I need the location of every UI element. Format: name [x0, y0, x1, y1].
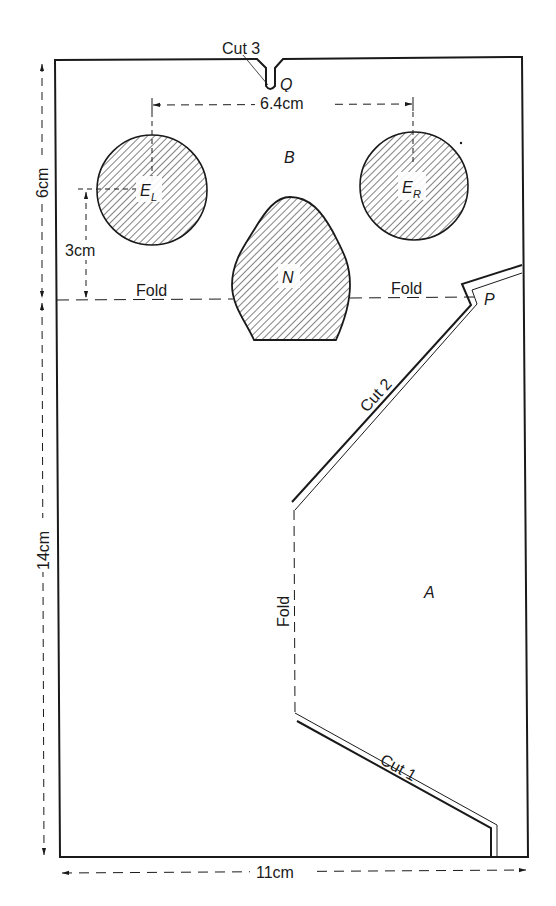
horizontal-fold-line-left	[57, 299, 233, 300]
vertical-fold-line	[294, 510, 295, 713]
horizontal-fold-line-right	[350, 297, 474, 298]
right-eye-subscript: R	[413, 188, 421, 200]
cut1-label: Cut 1	[378, 751, 420, 784]
mask-template-diagram: Cut 3 Q 6.4cm E L E R B N Fold Fold 3cm …	[0, 0, 556, 906]
width-label: 11cm	[256, 864, 294, 881]
point-p-label: P	[484, 291, 495, 308]
left-eye-subscript: L	[151, 191, 157, 203]
cut3-label: Cut 3	[222, 40, 260, 57]
bottom-height-dim-line	[42, 303, 44, 855]
left-eye-label: E	[140, 182, 151, 199]
eye-spacing-label: 6.4cm	[260, 95, 304, 112]
top-height-label: 6cm	[34, 168, 51, 198]
vertical-fold-label: Fold	[275, 596, 292, 627]
right-eye-label: E	[402, 179, 413, 196]
eye-height-label: 3cm	[65, 242, 95, 259]
region-a-label: A	[423, 584, 435, 601]
fold-label-right: Fold	[391, 280, 422, 297]
fold-label-left: Fold	[136, 282, 167, 299]
bottom-height-label: 14cm	[35, 531, 52, 570]
nose-label: N	[282, 269, 294, 286]
speck	[460, 142, 462, 144]
region-b-label: B	[284, 149, 295, 166]
cut1-thick	[297, 721, 491, 857]
point-q-label: Q	[280, 76, 292, 93]
cut1-thin	[295, 713, 497, 857]
